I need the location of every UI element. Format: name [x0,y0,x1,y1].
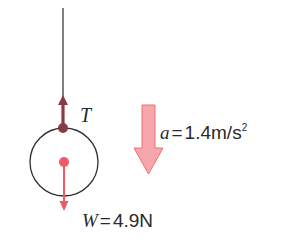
weight-label: W=4.9N [82,210,153,232]
acceleration-exponent: 2 [242,122,248,133]
acceleration-arrow-icon [134,105,163,174]
tension-symbol: T [80,104,91,126]
tension-label: T [80,104,91,127]
weight-symbol: W [82,210,98,231]
force-diagram [0,0,294,240]
acceleration-equals: = [172,122,183,143]
acceleration-value: 1.4m/s [185,122,242,143]
tension-arrow-icon [58,95,68,133]
acceleration-symbol: a [160,122,170,143]
acceleration-label: a=1.4m/s2 [160,122,247,144]
weight-value: 4.9N [113,210,153,231]
weight-equals: = [100,210,111,231]
weight-arrow-icon [59,157,69,211]
